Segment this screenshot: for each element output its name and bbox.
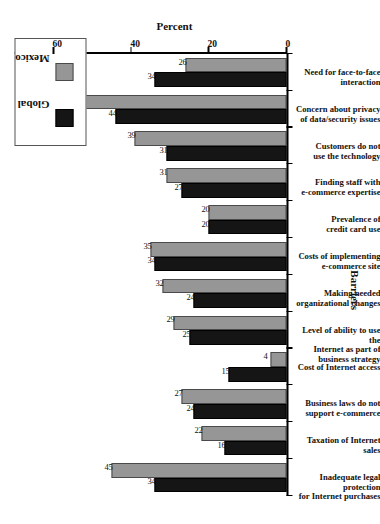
bar-mexico-1 — [201, 426, 286, 441]
category-axis-tick — [286, 90, 292, 91]
category-axis-tick — [286, 311, 292, 312]
bar-global-4 — [189, 330, 286, 345]
category-axis-label: Finding staff with e-commerce expertise — [294, 178, 380, 197]
bar-global-8 — [181, 183, 286, 198]
bar-value-label: 24 — [186, 292, 194, 302]
bar-global-5 — [193, 293, 286, 308]
bar-mexico-3 — [270, 352, 286, 367]
category-axis-label: Concern about privacy of data/security i… — [294, 105, 380, 124]
category-axis-label: Costs of implementing e-commerce site — [294, 252, 380, 271]
bar-value-label: 27 — [174, 182, 182, 192]
bar-mexico-8 — [166, 168, 286, 183]
legend-label-global: Global — [17, 99, 49, 111]
bar-global-1 — [224, 441, 286, 456]
bar-value-label: 25 — [182, 329, 190, 339]
category-axis-tick — [286, 421, 292, 422]
bar-value-label: 29 — [166, 314, 174, 324]
bar-mexico-2 — [181, 389, 286, 404]
bar-mexico-7 — [208, 205, 286, 220]
value-axis-tick-label: 0 — [285, 39, 290, 49]
bar-value-label: 34 — [147, 255, 155, 265]
category-axis-label: Making needed organizational changes — [294, 289, 380, 308]
bar-value-label: 20 — [201, 219, 209, 229]
bar-mexico-4 — [173, 316, 286, 331]
category-axis-label: Taxation of Internet sales — [294, 436, 380, 455]
bar-mexico-5 — [162, 279, 286, 294]
bar-value-label: 22 — [194, 425, 202, 435]
bar-value-label: 35 — [143, 241, 151, 251]
bar-global-6 — [154, 257, 286, 272]
category-axis-label: Level of ability to use the Internet as … — [294, 326, 380, 364]
bar-mexico-10 — [61, 95, 286, 110]
bar-mexico-6 — [150, 242, 286, 257]
bar-global-11 — [154, 72, 286, 87]
bar-value-label: 45 — [104, 462, 112, 472]
category-axis-label: Prevalence of credit card use — [294, 215, 380, 234]
bar-mexico-0 — [111, 463, 286, 478]
bar-value-label: 4 — [263, 351, 267, 361]
bar-value-label: 27 — [174, 388, 182, 398]
bar-global-0 — [154, 478, 286, 493]
bar-global-7 — [208, 220, 286, 235]
value-axis-tick-label: 40 — [130, 39, 140, 49]
category-axis-label: Business laws do not support e-commerce — [294, 399, 380, 418]
category-axis-label: Inadequate legal protection for Internet… — [294, 473, 380, 502]
category-axis-tick — [286, 384, 292, 385]
bar-value-label: 34 — [147, 476, 155, 486]
legend-label-mexico: Mexico — [15, 53, 49, 65]
chart-legend: GlobalMexico — [14, 38, 86, 146]
category-axis-tick — [286, 458, 292, 459]
category-axis-tick — [286, 163, 292, 164]
category-axis-tick — [286, 495, 292, 496]
bar-value-label: 20 — [201, 204, 209, 214]
category-axis-tick — [286, 53, 292, 54]
category-axis-tick — [286, 200, 292, 201]
bar-value-label: 24 — [186, 403, 194, 413]
category-axis-tick — [286, 274, 292, 275]
value-axis-tick-label: 20 — [207, 39, 217, 49]
bar-global-10 — [115, 109, 286, 124]
bar-value-label: 31 — [159, 145, 167, 155]
bar-value-label: 15 — [221, 366, 229, 376]
category-axis-label: Customers do not use the technology — [294, 142, 380, 161]
bar-global-3 — [228, 367, 286, 382]
legend-swatch-global — [55, 109, 73, 127]
bar-value-label: 26 — [178, 57, 186, 67]
bar-global-2 — [193, 404, 286, 419]
bar-value-label: 39 — [127, 130, 135, 140]
bar-value-label: 32 — [155, 278, 163, 288]
bar-mexico-9 — [134, 131, 286, 146]
value-axis-title: Percent — [156, 20, 192, 32]
bar-value-label: 16 — [217, 440, 225, 450]
bar-value-label: 44 — [108, 108, 116, 118]
bar-mexico-11 — [185, 58, 286, 73]
legend-swatch-mexico — [55, 63, 73, 81]
bar-value-label: 31 — [159, 167, 167, 177]
category-axis-tick — [286, 126, 292, 127]
category-axis-label: Need for face-to-face interaction — [294, 68, 380, 87]
bar-value-label: 34 — [147, 71, 155, 81]
category-axis-tick — [286, 347, 292, 348]
category-axis-tick — [286, 237, 292, 238]
bar-global-9 — [166, 146, 286, 161]
value-axis-tick-label: 60 — [52, 39, 62, 49]
